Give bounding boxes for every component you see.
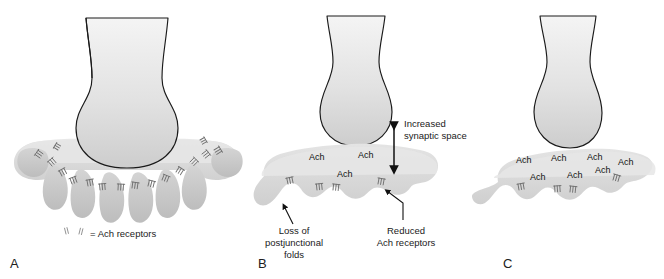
increased-synaptic-space-line2: synaptic space (404, 130, 467, 142)
panel-letter-c: C (503, 256, 513, 271)
reduced-ach-receptors-line2: Ach receptors (362, 237, 450, 249)
loss-of-postjunctional-folds-line2: postjunctional (248, 237, 340, 249)
panel-a-graphics (14, 18, 243, 235)
legend-ach-receptors-text: = Ach receptors (90, 228, 156, 239)
reduced-ach-receptors-line1: Reduced (372, 225, 440, 237)
figure-canvas: = Ach receptors Ach Ach Ach Increased sy… (0, 0, 664, 279)
ach-receptor-symbol (65, 228, 83, 235)
ach-label: Ach (595, 165, 611, 175)
ach-label: Ach (551, 153, 567, 163)
ach-label: Ach (530, 172, 546, 182)
loss-of-folds-arrow (284, 206, 293, 224)
panel-letter-a: A (10, 256, 19, 271)
ach-label: Ach (618, 157, 634, 167)
reduced-receptors-arrow (387, 191, 403, 220)
ach-label: Ach (587, 152, 603, 162)
panel-c-nerve-terminal (534, 16, 602, 148)
ach-label: Ach (337, 169, 353, 179)
panel-letter-b: B (258, 256, 267, 271)
ach-label: Ach (567, 170, 583, 180)
ach-label: Ach (309, 152, 325, 162)
ach-label: Ach (516, 155, 532, 165)
panel-c-graphics (472, 16, 656, 204)
ach-label: Ach (358, 150, 374, 160)
panel-b-nerve-terminal (320, 16, 392, 146)
loss-of-postjunctional-folds-line1: Loss of (256, 225, 332, 237)
increased-synaptic-space-line1: Increased (404, 118, 446, 130)
loss-of-postjunctional-folds-line3: folds (256, 249, 332, 261)
panel-a-nerve-terminal (76, 18, 178, 168)
